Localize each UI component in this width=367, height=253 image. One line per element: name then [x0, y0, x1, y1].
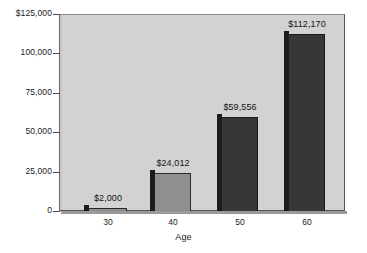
y-axis-label-wrap: 25,000: [0, 166, 52, 177]
y-axis-label-wrap: 100,000: [0, 47, 52, 58]
y-axis-label-wrap: 50,000: [0, 126, 52, 137]
y-axis-label-wrap: 75,000: [0, 87, 52, 98]
y-axis-tick: [53, 93, 60, 94]
y-axis-label: 100,000: [0, 47, 52, 57]
y-axis-label: $125,000: [0, 8, 52, 18]
y-axis-label-wrap: 0: [0, 205, 52, 216]
bar-value-label: $2,000: [68, 193, 148, 203]
y-axis-tick: [53, 132, 60, 133]
bar[interactable]: [84, 205, 127, 211]
y-axis-tick: [53, 172, 60, 173]
x-axis-label: 30: [83, 217, 133, 227]
bar-front-face: [289, 34, 325, 211]
bar-value-label: $59,556: [200, 102, 280, 112]
y-axis-label: 75,000: [0, 87, 52, 97]
y-axis-tick: [53, 14, 60, 15]
bar[interactable]: [284, 31, 325, 211]
x-axis-label: 60: [282, 217, 332, 227]
bar-chart: $125,000100,00075,00050,00025,0000 $2,00…: [0, 0, 367, 253]
bar[interactable]: [150, 170, 191, 211]
bar-front-face: [155, 173, 191, 211]
y-axis-label: 25,000: [0, 166, 52, 176]
bar-front-face: [222, 117, 258, 211]
bar-value-label: $112,170: [267, 19, 347, 29]
y-axis-label: 50,000: [0, 126, 52, 136]
x-axis-label: 50: [215, 217, 265, 227]
x-axis-title: Age: [0, 232, 367, 242]
y-axis-label-wrap: $125,000: [0, 8, 52, 19]
y-axis-line: [59, 14, 60, 211]
y-axis-label: 0: [0, 205, 52, 215]
bar[interactable]: [217, 114, 258, 211]
bar-value-label: $24,012: [133, 158, 213, 168]
x-axis-label: 40: [148, 217, 198, 227]
y-axis-tick: [53, 211, 60, 212]
bar-front-face: [89, 208, 127, 211]
baseline-shadow: [61, 211, 347, 214]
y-axis-tick: [53, 53, 60, 54]
